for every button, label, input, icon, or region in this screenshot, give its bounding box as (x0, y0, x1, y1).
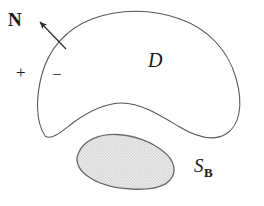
math-figure: N D + − SB (0, 0, 264, 206)
normal-vector-label: N (8, 10, 22, 29)
figure-canvas (0, 0, 264, 206)
domain-label: D (148, 50, 162, 70)
surface-symbol: S (194, 155, 204, 176)
plus-side-label: + (16, 64, 26, 81)
normal-vector-arrow-icon (40, 22, 66, 49)
inner-shaded-blob (77, 134, 174, 189)
surface-subscript: B (204, 165, 213, 180)
surface-label: SB (194, 156, 213, 179)
outer-boundary-curve (38, 11, 240, 138)
minus-side-label: − (52, 66, 62, 83)
